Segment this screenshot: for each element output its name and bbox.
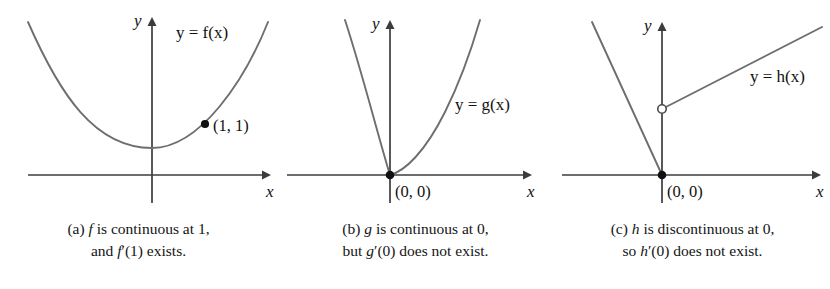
point-label-1-1: (1, 1)	[213, 116, 249, 135]
curve-label-h: y = h(x)	[750, 67, 805, 86]
caption-c-line2: so h′(0) does not exist.	[554, 240, 830, 262]
x-axis-arrow-b	[523, 171, 532, 180]
panel-c: x y y = h(x) (0, 0) (c) h is discontinuo…	[554, 0, 830, 289]
graph-a: x y y = f(x) (1, 1)	[0, 0, 277, 215]
y-axis-label-c: y	[642, 16, 652, 35]
point-label-0-0-c: (0, 0)	[667, 182, 703, 201]
caption-a: (a) f is continuous at 1, and f′(1) exis…	[0, 218, 277, 262]
y-axis-arrow-c	[658, 22, 667, 31]
x-axis-label-a: x	[265, 182, 274, 201]
y-axis-label-a: y	[132, 11, 142, 30]
x-axis-arrow-c	[812, 171, 821, 180]
y-axis-label-b: y	[370, 14, 380, 33]
point-marker-0-0-c	[658, 171, 667, 180]
y-axis-arrow-b	[386, 20, 395, 29]
point-marker-1-1	[201, 120, 209, 128]
caption-c: (c) h is discontinuous at 0, so h′(0) do…	[554, 218, 830, 262]
point-label-0-0-b: (0, 0)	[395, 182, 431, 201]
caption-b-line2: but g′(0) does not exist.	[277, 240, 554, 262]
graph-b: x y y = g(x) (0, 0)	[277, 0, 554, 215]
x-axis-label-b: x	[526, 182, 535, 201]
caption-c-line1: (c) h is discontinuous at 0,	[554, 218, 830, 240]
point-marker-0-0-b	[386, 171, 395, 180]
panel-a: x y y = f(x) (1, 1) (a) f is continuous …	[0, 0, 277, 289]
caption-b-line1: (b) g is continuous at 0,	[277, 218, 554, 240]
caption-b: (b) g is continuous at 0, but g′(0) does…	[277, 218, 554, 262]
figure-container: x y y = f(x) (1, 1) (a) f is continuous …	[0, 0, 830, 289]
graph-c: x y y = h(x) (0, 0)	[554, 0, 830, 215]
curve-label-f: y = f(x)	[176, 23, 228, 42]
caption-a-line2: and f′(1) exists.	[0, 240, 277, 262]
y-axis-arrow-a	[148, 17, 157, 26]
curve-label-g: y = g(x)	[455, 95, 510, 114]
panel-b: x y y = g(x) (0, 0) (b) g is continuous …	[277, 0, 554, 289]
open-point-marker-c	[658, 105, 666, 113]
caption-a-line1: (a) f is continuous at 1,	[0, 218, 277, 240]
x-axis-arrow-a	[262, 171, 271, 180]
x-axis-label-c: x	[815, 182, 824, 201]
curve-h-left	[592, 22, 662, 175]
